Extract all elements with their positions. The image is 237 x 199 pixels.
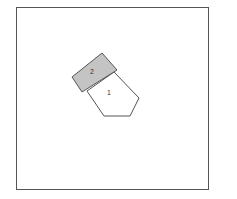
diagram-canvas: 1 2 (0, 0, 237, 199)
shape-2-label: 2 (90, 68, 94, 75)
shape-1-label: 1 (107, 89, 111, 96)
